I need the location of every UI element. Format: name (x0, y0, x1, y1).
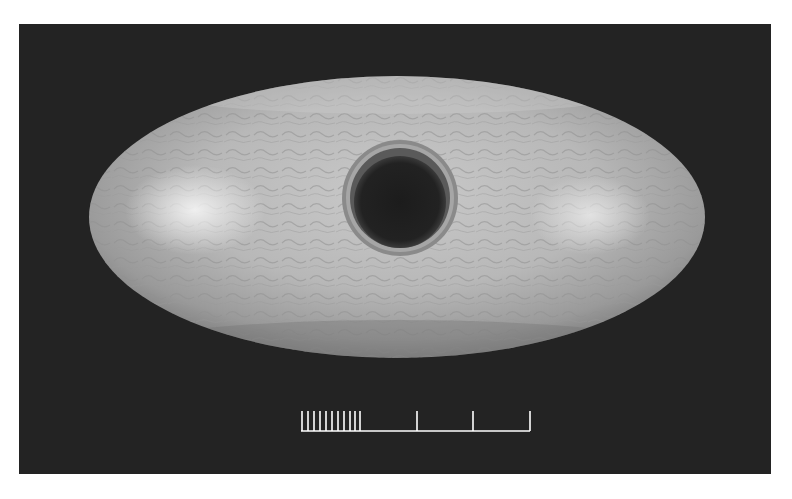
shaft-hole (342, 140, 458, 256)
scale-bar (301, 411, 530, 431)
artifact-photo (0, 0, 792, 499)
